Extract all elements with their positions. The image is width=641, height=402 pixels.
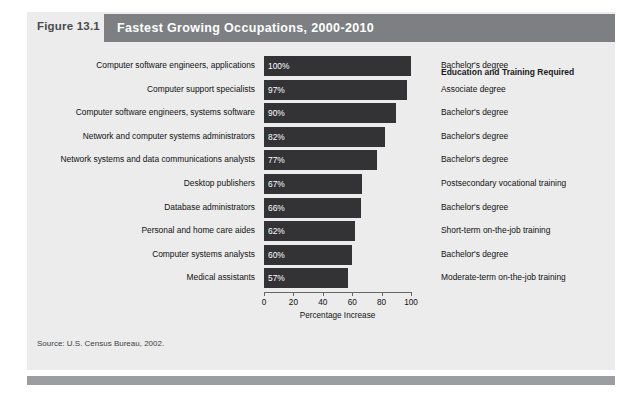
occupation-label: Computer systems analysts bbox=[27, 249, 255, 259]
x-axis-tick-label: 40 bbox=[318, 298, 327, 307]
education-requirement-label: Short-term on-the-job training bbox=[441, 225, 550, 235]
bar-row: Personal and home care aides62%Short-ter… bbox=[27, 221, 615, 241]
figure-header: Figure 13.1 Fastest Growing Occupations,… bbox=[27, 14, 615, 42]
bar: 97% bbox=[264, 80, 407, 100]
bar: 57% bbox=[264, 268, 348, 288]
chart-plot-area: Education and Training Required Computer… bbox=[27, 42, 615, 342]
bar-row: Network systems and data communications … bbox=[27, 150, 615, 170]
bar-value-label: 82% bbox=[268, 132, 285, 142]
figure-panel: Figure 13.1 Fastest Growing Occupations,… bbox=[27, 12, 615, 370]
x-axis-tick bbox=[293, 292, 294, 296]
bar-value-label: 66% bbox=[268, 203, 285, 213]
x-axis-tick bbox=[352, 292, 353, 296]
bar-row: Computer support specialists97%Associate… bbox=[27, 80, 615, 100]
bar-value-label: 57% bbox=[268, 273, 285, 283]
x-axis-tick bbox=[382, 292, 383, 296]
occupation-label: Database administrators bbox=[27, 202, 255, 212]
source-note: Source: U.S. Census Bureau, 2002. bbox=[37, 339, 164, 348]
occupation-label: Computer software engineers, application… bbox=[27, 60, 255, 70]
bar-value-label: 90% bbox=[268, 108, 285, 118]
bar-row: Desktop publishers67%Postsecondary vocat… bbox=[27, 174, 615, 194]
education-requirement-label: Bachelor's degree bbox=[441, 107, 508, 117]
figure-number-label: Figure 13.1 bbox=[37, 20, 100, 32]
figure-title: Fastest Growing Occupations, 2000-2010 bbox=[117, 21, 374, 35]
x-axis-tick bbox=[323, 292, 324, 296]
bar-row: Medical assistants57%Moderate-term on-th… bbox=[27, 268, 615, 288]
x-axis-tick bbox=[411, 292, 412, 296]
bar: 62% bbox=[264, 221, 355, 241]
education-requirement-label: Bachelor's degree bbox=[441, 60, 508, 70]
bar-value-label: 97% bbox=[268, 85, 285, 95]
bar: 77% bbox=[264, 150, 377, 170]
occupation-label: Network systems and data communications … bbox=[27, 154, 255, 164]
bar-value-label: 62% bbox=[268, 226, 285, 236]
education-requirement-label: Bachelor's degree bbox=[441, 154, 508, 164]
bar-row: Computer software engineers, systems sof… bbox=[27, 103, 615, 123]
education-requirement-label: Moderate-term on-the-job training bbox=[441, 272, 566, 282]
x-axis-title: Percentage Increase bbox=[264, 311, 411, 320]
bar: 100% bbox=[264, 56, 411, 76]
occupation-label: Desktop publishers bbox=[27, 178, 255, 188]
occupation-label: Personal and home care aides bbox=[27, 225, 255, 235]
education-requirement-label: Bachelor's degree bbox=[441, 249, 508, 259]
footer-bar bbox=[27, 376, 615, 385]
education-requirement-label: Bachelor's degree bbox=[441, 131, 508, 141]
x-axis-tick-label: 60 bbox=[348, 298, 357, 307]
x-axis-tick-label: 100 bbox=[404, 298, 418, 307]
occupation-label: Computer software engineers, systems sof… bbox=[27, 107, 255, 117]
bar: 67% bbox=[264, 174, 362, 194]
bar-value-label: 60% bbox=[268, 250, 285, 260]
x-axis-line bbox=[264, 292, 411, 293]
bar-row: Computer systems analysts60%Bachelor's d… bbox=[27, 245, 615, 265]
figure-title-bar: Fastest Growing Occupations, 2000-2010 bbox=[104, 14, 615, 42]
education-requirement-label: Postsecondary vocational training bbox=[441, 178, 566, 188]
bar-row: Database administrators66%Bachelor's deg… bbox=[27, 198, 615, 218]
bar: 66% bbox=[264, 198, 361, 218]
occupation-label: Network and computer systems administrat… bbox=[27, 131, 255, 141]
bar-value-label: 100% bbox=[268, 61, 289, 71]
occupation-label: Computer support specialists bbox=[27, 84, 255, 94]
bar-value-label: 77% bbox=[268, 155, 285, 165]
occupation-label: Medical assistants bbox=[27, 272, 255, 282]
bar: 60% bbox=[264, 245, 352, 265]
x-axis-tick-label: 80 bbox=[377, 298, 386, 307]
bar: 82% bbox=[264, 127, 385, 147]
education-requirement-label: Bachelor's degree bbox=[441, 202, 508, 212]
x-axis-tick bbox=[264, 292, 265, 296]
x-axis-tick-label: 0 bbox=[262, 298, 267, 307]
x-axis-tick-label: 20 bbox=[289, 298, 298, 307]
bar-row: Network and computer systems administrat… bbox=[27, 127, 615, 147]
bar-value-label: 67% bbox=[268, 179, 285, 189]
bar: 90% bbox=[264, 103, 396, 123]
bar-row: Computer software engineers, application… bbox=[27, 56, 615, 76]
education-requirement-label: Associate degree bbox=[441, 84, 506, 94]
